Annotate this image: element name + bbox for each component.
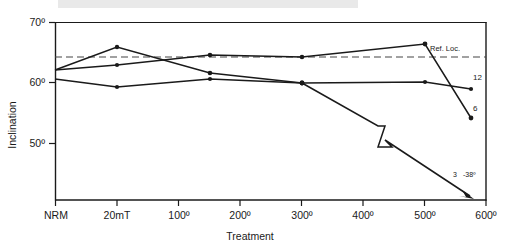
x-tick-label-nrm: NRM bbox=[44, 209, 68, 221]
plot-area: 70º 60º 50º Inclination NRM 20mT 100º 20… bbox=[0, 0, 515, 246]
y-tick-label-60: 60º bbox=[29, 76, 45, 88]
series-3-annotation: -38º bbox=[463, 171, 476, 178]
x-tick-label-200: 200º bbox=[229, 209, 251, 221]
series-6-markers bbox=[115, 42, 474, 121]
x-tick-label-500: 500º bbox=[414, 209, 436, 221]
x-axis-ticks bbox=[56, 200, 487, 206]
x-tick-label-600: 600º bbox=[475, 209, 497, 221]
chart-figure: 70º 60º 50º Inclination NRM 20mT 100º 20… bbox=[0, 0, 515, 246]
series-3-line-lower-with-break bbox=[302, 83, 470, 196]
series-3 bbox=[55, 45, 474, 199]
series-12-markers bbox=[115, 77, 473, 91]
reference-line-label: Ref. Loc. bbox=[430, 44, 460, 53]
series-label-6: 6 bbox=[473, 104, 478, 113]
y-axis-title: Inclination bbox=[6, 101, 18, 148]
series-3-arrow-terminator bbox=[459, 190, 474, 199]
y-tick-label-70: 70º bbox=[29, 16, 45, 28]
y-tick-label-50: 50º bbox=[29, 137, 45, 149]
x-tick-label-100: 100º bbox=[168, 209, 190, 221]
x-tick-label-400: 400º bbox=[352, 209, 374, 221]
series-3-line-upper bbox=[55, 47, 302, 83]
x-tick-label-300: 300º bbox=[291, 209, 313, 221]
x-axis-title: Treatment bbox=[226, 230, 274, 242]
series-label-3: 3 bbox=[453, 171, 457, 178]
inclination-vs-treatment-chart: 70º 60º 50º Inclination NRM 20mT 100º 20… bbox=[0, 0, 515, 246]
x-tick-label-20mt: 20mT bbox=[104, 209, 131, 221]
y-axis-ticks bbox=[49, 23, 55, 144]
axis-frame bbox=[55, 22, 487, 201]
series-label-12: 12 bbox=[473, 73, 482, 82]
